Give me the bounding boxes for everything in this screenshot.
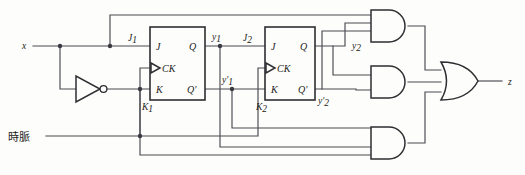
label-j1: J1 (128, 33, 137, 45)
wire-y2-out (315, 23, 371, 46)
wire-and1-to-or (408, 26, 441, 70)
and-gate-1[interactable] (371, 10, 405, 42)
flipflop-1[interactable]: J CK K Q Q' (150, 27, 205, 100)
flipflop-2-pin-k: K (270, 84, 279, 95)
label-k1: K1 (141, 102, 153, 114)
label-y2bar: y'2 (317, 96, 329, 108)
wire-x-branch-inverter (60, 46, 76, 89)
flipflop-2-pin-ck: CK (277, 63, 292, 74)
flipflop-2[interactable]: J CK K Q Q' (265, 27, 315, 100)
label-input-x: x (21, 41, 27, 51)
label-input-clock: 時脈 (8, 130, 30, 144)
label-j2: J2 (243, 33, 252, 45)
junction-x-inverter (58, 44, 62, 48)
label-y1: y1 (211, 32, 221, 44)
not-gate-bubble (100, 86, 107, 93)
flipflop-1-pin-qbar: Q' (187, 84, 197, 95)
and-gate-3[interactable] (371, 127, 405, 159)
junction-k1-rail (138, 87, 142, 91)
junction-y1bar (230, 87, 234, 91)
label-output-z: z (507, 77, 512, 87)
flipflop-1-pin-q: Q (189, 41, 197, 52)
and-gate-2[interactable] (371, 66, 405, 98)
and-gate-2-body (371, 66, 405, 98)
circuit-diagram: J CK K Q Q' J CK K Q Q' x 時脈 (0, 0, 525, 175)
junction-y1 (218, 44, 222, 48)
not-gate-triangle (76, 76, 100, 102)
label-y2: y2 (351, 41, 361, 53)
flipflop-1-pin-k: K (155, 84, 164, 95)
flipflop-1-pin-ck: CK (162, 63, 177, 74)
or-gate[interactable] (441, 62, 478, 100)
flipflop-2-pin-j: J (271, 41, 276, 52)
junction-clock-split (138, 134, 142, 138)
label-y1bar: y'1 (221, 75, 233, 87)
or-gate-body (441, 62, 478, 100)
flipflop-2-pin-qbar: Q' (298, 84, 308, 95)
flipflop-2-pin-q: Q (300, 41, 308, 52)
junction-x-topfeedback (108, 44, 112, 48)
label-k2: K2 (255, 102, 267, 114)
not-gate[interactable] (76, 76, 107, 102)
circuit-canvas: J CK K Q Q' J CK K Q Q' x 時脈 (0, 0, 525, 175)
wire-y2bar-to-and1 (322, 31, 371, 89)
wire-and3-to-or (408, 92, 441, 143)
flipflop-1-pin-j: J (156, 41, 161, 52)
wire-y2bar-out (315, 89, 371, 90)
and-gate-3-body (371, 127, 405, 159)
and-gate-1-body (371, 10, 405, 42)
